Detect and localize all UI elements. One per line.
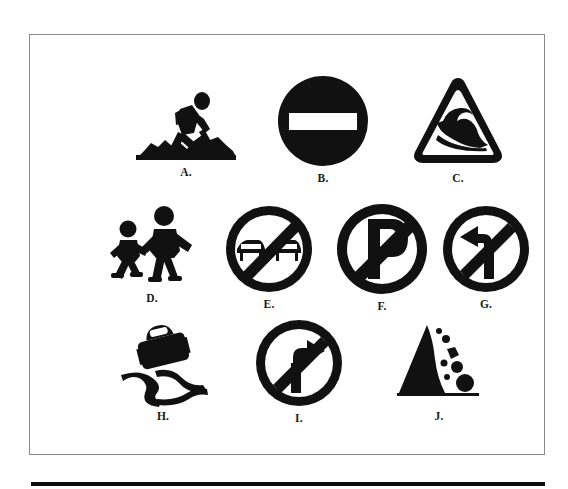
sign-item-h: H. [102, 319, 224, 423]
sign-label-b: B. [318, 173, 329, 185]
no-overtaking-icon [223, 203, 315, 295]
sign-label-c: C. [452, 173, 464, 185]
slippery-road-icon [111, 319, 215, 407]
falling-rocks-icon [389, 321, 489, 407]
sign-item-f: F. [326, 201, 438, 313]
sign-label-a: A. [180, 167, 192, 179]
sign-item-i: I. [242, 317, 356, 425]
children-crossing-icon [102, 203, 202, 289]
sign-label-j: J. [434, 411, 443, 423]
sign-item-e: E. [210, 203, 328, 311]
sign-item-c: C. [398, 73, 518, 185]
no-left-turn-icon [440, 203, 532, 295]
no-right-turn-icon [253, 317, 345, 409]
sign-item-g: G. [430, 203, 542, 311]
no-entry-icon [275, 73, 371, 169]
sign-item-a: A. [126, 85, 246, 179]
sign-item-b: B. [268, 73, 378, 185]
sign-label-d: D. [146, 293, 158, 305]
sign-item-j: J. [378, 321, 500, 423]
roadworks-icon [132, 85, 240, 163]
sign-label-f: F. [377, 301, 386, 313]
sign-label-h: H. [157, 411, 169, 423]
no-parking-icon [334, 201, 430, 297]
sign-grid: A. B. C. [30, 35, 544, 454]
sign-item-d: D. [92, 203, 212, 305]
sign-label-i: I. [295, 413, 303, 425]
wave-warning-triangle-icon [408, 73, 508, 169]
sign-label-e: E. [264, 299, 275, 311]
sign-label-g: G. [480, 299, 492, 311]
bottom-rule [31, 482, 545, 486]
figure-frame: A. B. C. [29, 34, 545, 455]
